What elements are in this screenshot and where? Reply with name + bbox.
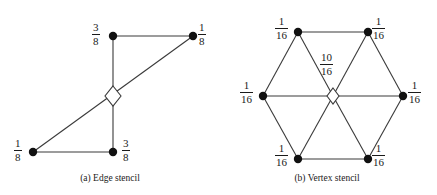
node-label-bottom-left: 1 16 (275, 143, 288, 168)
center-weight-label: 10 16 (320, 52, 333, 77)
vertex-stencil-panel: 1 16 1 16 1 16 1 16 1 16 1 16 10 16 (b) … (217, 0, 437, 195)
edge-stencil-graph (0, 0, 220, 175)
node-top-right (364, 28, 372, 36)
node-right (399, 92, 407, 100)
node-bottom-right (364, 155, 372, 163)
node-label-left: 1 16 (240, 80, 253, 105)
spoke-bottom-left (298, 96, 333, 159)
node-label-bottom-left: 1 8 (14, 138, 22, 163)
open-diamond-marker (327, 88, 339, 104)
node-label-top-left: 1 16 (275, 16, 288, 41)
node-bottom-right (109, 148, 117, 156)
node-top-left (109, 32, 117, 40)
edge-stencil-panel: 3 8 1 8 1 8 3 8 (a) Edge stencil (0, 0, 220, 195)
edge-upper-left (263, 32, 298, 96)
node-bottom-left (294, 155, 302, 163)
node-label-top-left: 3 8 (92, 22, 100, 47)
node-label-bottom-right: 3 8 (122, 138, 130, 163)
node-label-right: 1 16 (408, 80, 421, 105)
edge-stencil-caption: (a) Edge stencil (0, 173, 220, 183)
open-diamond-marker (105, 86, 121, 106)
stencil-figure: 3 8 1 8 1 8 3 8 (a) Edge stencil (0, 0, 437, 195)
node-label-top-right: 1 16 (372, 16, 385, 41)
node-left (259, 92, 267, 100)
vertex-stencil-caption: (b) Vertex stencil (217, 173, 437, 183)
spoke-bottom-right (333, 96, 368, 159)
edge-upper-right (368, 32, 403, 96)
node-top-left (294, 28, 302, 36)
node-top-right (189, 32, 197, 40)
node-label-bottom-right: 1 16 (372, 143, 385, 168)
spoke-top-right (333, 32, 368, 96)
node-bottom-left (29, 148, 37, 156)
node-label-top-right: 1 8 (198, 22, 206, 47)
